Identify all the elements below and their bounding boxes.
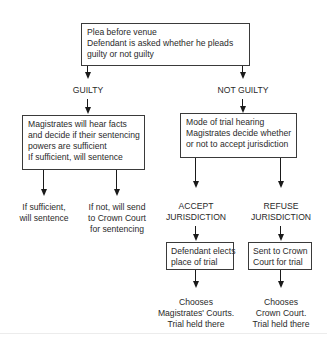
arrow-down-icon xyxy=(85,107,91,114)
if-sufficient-outcome: If sufficient, will sentence xyxy=(19,202,68,224)
plea-before-venue-box: Plea before venue Defendant is asked whe… xyxy=(81,23,250,66)
sent-to-crown-box: Sent to Crown Court for trial xyxy=(248,242,312,270)
accept-line-1: ACCEPT xyxy=(166,201,226,212)
if-sufficient-line-1: If sufficient, xyxy=(19,202,68,213)
facts-line-1: Magistrates will hear facts xyxy=(28,119,139,130)
chooses-crown-line-1: Chooses xyxy=(252,297,309,308)
sent-line-2: Court for trial xyxy=(253,257,307,268)
mode-line-2: Magistrates decide whether xyxy=(186,128,291,139)
plea-line-2: Defendant is asked whether he pleads xyxy=(87,38,244,49)
mode-line-1: Mode of trial hearing xyxy=(186,117,291,128)
if-not-line-2: to Crown Court xyxy=(88,213,146,224)
arrow-down-icon xyxy=(193,181,199,188)
chooses-crown-line-3: Trial held there xyxy=(252,319,309,330)
plea-line-3: guilty or not guilty xyxy=(87,49,244,60)
elects-line-1: Defendant elects xyxy=(171,246,229,257)
chooses-magistrates-outcome: Chooses Magistrates' Courts. Trial held … xyxy=(158,297,234,330)
if-not-outcome: If not, will send to Crown Court for sen… xyxy=(88,202,146,235)
elects-line-2: place of trial xyxy=(171,257,229,268)
guilty-label: GUILTY xyxy=(73,85,103,96)
chooses-mag-line-2: Magistrates' Courts. xyxy=(158,308,234,319)
chooses-mag-line-3: Trial held there xyxy=(158,319,234,330)
accept-jurisdiction-label: ACCEPT JURISDICTION xyxy=(166,201,226,223)
if-sufficient-line-2: will sentence xyxy=(19,213,68,224)
facts-line-2: and decide if their sentencing xyxy=(28,130,139,141)
plea-line-1: Plea before venue xyxy=(87,27,244,38)
sent-line-1: Sent to Crown xyxy=(253,246,307,257)
arrow-down-icon xyxy=(240,72,246,79)
mode-of-trial-box: Mode of trial hearing Magistrates decide… xyxy=(180,113,297,158)
refuse-line-2: JURISDICTION xyxy=(251,212,311,223)
defendant-elects-box: Defendant elects place of trial xyxy=(166,242,234,270)
connector-facts-not xyxy=(116,170,117,190)
facts-line-3: powers are sufficient xyxy=(28,141,139,152)
arrow-down-icon xyxy=(193,234,199,241)
page-divider xyxy=(0,333,327,334)
connector-facts-sufficient xyxy=(43,170,44,190)
connector-mode-accept xyxy=(195,158,196,182)
arrow-down-icon xyxy=(278,181,284,188)
chooses-crown-outcome: Chooses Crown Court. Trial held there xyxy=(252,297,309,330)
arrow-down-icon xyxy=(114,189,120,196)
facts-line-4: If sufficient, will sentence xyxy=(28,152,139,163)
if-not-line-1: If not, will send xyxy=(88,202,146,213)
magistrates-hear-facts-box: Magistrates will hear facts and decide i… xyxy=(22,115,145,170)
if-not-line-3: for sentencing xyxy=(88,224,146,235)
arrow-down-icon xyxy=(278,234,284,241)
arrow-down-icon xyxy=(85,72,91,79)
not-guilty-label: NOT GUILTY xyxy=(218,85,269,96)
chooses-mag-line-1: Chooses xyxy=(158,297,234,308)
arrow-down-icon xyxy=(193,281,199,288)
chooses-crown-line-2: Crown Court. xyxy=(252,308,309,319)
accept-line-2: JURISDICTION xyxy=(166,212,226,223)
connector-mode-refuse xyxy=(280,158,281,182)
arrow-down-icon xyxy=(278,281,284,288)
refuse-line-1: REFUSE xyxy=(251,201,311,212)
arrow-down-icon xyxy=(240,106,246,113)
arrow-down-icon xyxy=(41,189,47,196)
mode-line-3: or not to accept jurisdiction xyxy=(186,139,291,150)
refuse-jurisdiction-label: REFUSE JURISDICTION xyxy=(251,201,311,223)
